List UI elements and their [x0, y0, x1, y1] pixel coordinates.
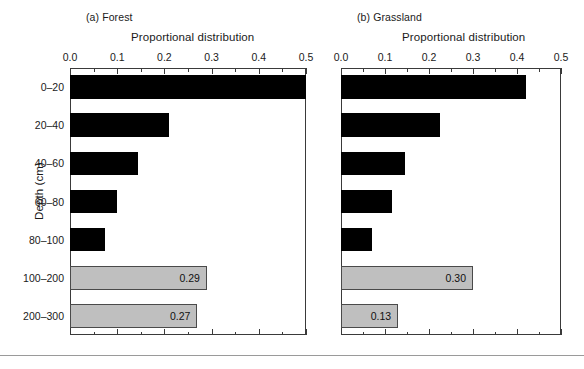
x-axis-title-forest: Proportional distribution: [131, 31, 254, 43]
x-tick-label-forest-1: 0.1: [110, 51, 125, 63]
x-tick-label-forest-0: 0.0: [63, 51, 78, 63]
x-minortick-bottom-grassland-4: [539, 332, 540, 336]
bar-grassland-200-300[interactable]: 0.13: [341, 304, 398, 328]
x-tick-bottom-forest-3: [212, 329, 213, 335]
x-tick-bottom-forest-5: [306, 329, 307, 335]
x-tick-bottom-grassland-1: [385, 329, 386, 335]
x-minortick-bottom-forest-4: [282, 332, 283, 336]
x-tick-top-grassland-0: [341, 68, 342, 74]
x-tick-label-grassland-5: 0.5: [554, 51, 569, 63]
bar-value-label-forest-5: 0.29: [179, 272, 199, 284]
figure-root: (a) Forest (b) Grassland Proportional di…: [0, 0, 584, 369]
y-tick-label-5: 100–200: [23, 272, 64, 284]
x-tick-bottom-grassland-4: [517, 329, 518, 335]
x-tick-top-forest-1: [117, 68, 118, 74]
bottom-rule: [0, 355, 584, 356]
x-minortick-top-forest-1: [141, 68, 142, 72]
x-tick-label-grassland-0: 0.0: [334, 51, 349, 63]
bar-forest-20-40[interactable]: [70, 113, 169, 137]
bar-grassland-60-80[interactable]: [341, 190, 392, 214]
x-tick-top-grassland-2: [429, 68, 430, 74]
x-tick-bottom-forest-4: [259, 329, 260, 335]
bar-grassland-80-100[interactable]: [341, 228, 372, 252]
x-tick-label-grassland-1: 0.1: [378, 51, 393, 63]
y-tick-label-6: 200–300: [23, 310, 64, 322]
x-tick-top-forest-2: [164, 68, 165, 74]
y-tick-label-0: 0–20: [41, 81, 64, 93]
panel-title-forest: (a) Forest: [86, 11, 133, 23]
x-tick-label-forest-2: 0.2: [157, 51, 172, 63]
x-minortick-bottom-forest-1: [141, 332, 142, 336]
x-minortick-bottom-grassland-0: [363, 332, 364, 336]
bar-forest-100-200[interactable]: 0.29: [70, 266, 207, 290]
bar-forest-200-300[interactable]: 0.27: [70, 304, 197, 328]
x-tick-bottom-forest-2: [164, 329, 165, 335]
x-tick-top-grassland-4: [517, 68, 518, 74]
x-tick-bottom-grassland-3: [473, 329, 474, 335]
bar-grassland-0-20[interactable]: [341, 75, 526, 99]
x-tick-bottom-grassland-0: [341, 329, 342, 335]
x-minortick-bottom-forest-3: [235, 332, 236, 336]
y-tick-label-3: 60–80: [35, 196, 64, 208]
x-tick-label-grassland-2: 0.2: [422, 51, 437, 63]
bar-value-label-forest-6: 0.27: [170, 310, 190, 322]
x-minortick-top-grassland-1: [407, 68, 408, 72]
x-tick-label-forest-5: 0.5: [299, 51, 314, 63]
y-tick-label-4: 80–100: [29, 234, 64, 246]
x-minortick-top-grassland-3: [495, 68, 496, 72]
x-minortick-top-forest-2: [188, 68, 189, 72]
x-minortick-bottom-grassland-1: [407, 332, 408, 336]
bar-grassland-40-60[interactable]: [341, 152, 405, 176]
bar-forest-60-80[interactable]: [70, 190, 117, 214]
x-tick-label-forest-3: 0.3: [204, 51, 219, 63]
x-minortick-bottom-forest-2: [188, 332, 189, 336]
y-tick-label-2: 40–60: [35, 157, 64, 169]
x-tick-top-forest-5: [306, 68, 307, 74]
bar-grassland-20-40[interactable]: [341, 113, 440, 137]
bar-forest-0-20[interactable]: [70, 75, 306, 99]
x-tick-bottom-grassland-5: [561, 329, 562, 335]
bar-grassland-100-200[interactable]: 0.30: [341, 266, 473, 290]
x-axis-title-grassland: Proportional distribution: [402, 31, 525, 43]
x-minortick-top-forest-3: [235, 68, 236, 72]
x-minortick-bottom-grassland-3: [495, 332, 496, 336]
x-tick-top-forest-0: [70, 68, 71, 74]
x-tick-label-grassland-4: 0.4: [510, 51, 525, 63]
x-minortick-top-grassland-4: [539, 68, 540, 72]
bar-value-label-grassland-6: 0.13: [371, 310, 391, 322]
x-minortick-top-forest-4: [282, 68, 283, 72]
bar-value-label-grassland-5: 0.30: [446, 272, 466, 284]
x-tick-top-forest-3: [212, 68, 213, 74]
x-minortick-top-grassland-0: [363, 68, 364, 72]
x-tick-label-forest-4: 0.4: [251, 51, 266, 63]
x-tick-label-grassland-3: 0.3: [466, 51, 481, 63]
x-tick-top-forest-4: [259, 68, 260, 74]
x-tick-bottom-grassland-2: [429, 329, 430, 335]
bar-forest-40-60[interactable]: [70, 152, 138, 176]
x-minortick-bottom-forest-0: [94, 332, 95, 336]
x-minortick-bottom-grassland-2: [451, 332, 452, 336]
x-tick-bottom-forest-0: [70, 329, 71, 335]
x-minortick-top-forest-0: [94, 68, 95, 72]
x-tick-top-grassland-1: [385, 68, 386, 74]
panel-title-grassland: (b) Grassland: [357, 11, 422, 23]
x-tick-top-grassland-3: [473, 68, 474, 74]
x-tick-top-grassland-5: [561, 68, 562, 74]
x-tick-bottom-forest-1: [117, 329, 118, 335]
x-minortick-top-grassland-2: [451, 68, 452, 72]
bar-forest-80-100[interactable]: [70, 228, 105, 252]
y-tick-label-1: 20–40: [35, 119, 64, 131]
